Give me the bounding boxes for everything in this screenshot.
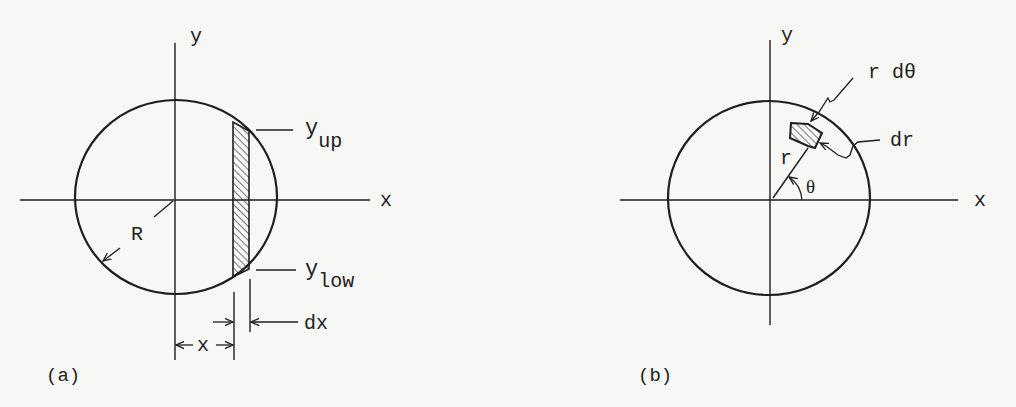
b-caption: (b) [638,365,672,387]
a-x-dim-label: x [197,334,209,357]
a-dx-label: dx [304,312,328,335]
b-y-axis-label: y [781,24,793,47]
a-radius-leader-1 [154,201,173,217]
b-circle [668,101,870,295]
b-rdtheta-label: r dθ [868,61,916,84]
a-ylow-label: ylow [305,257,354,293]
b-dr-label: dr [890,129,914,152]
b-radius-label: r [780,147,792,170]
a-yup-label: yup [305,116,342,153]
b-rdtheta-leader [811,78,853,121]
b-area-element [790,123,822,148]
a-y-axis-label: y [190,25,202,48]
a-radius-label: R [131,223,143,246]
a-x-axis-label: x [380,189,392,212]
b-x-axis-label: x [974,189,986,212]
a-hatched-strip [233,122,249,277]
panel-a: yup ylow R dx x y x (a) [20,25,392,387]
a-caption: (a) [46,365,80,387]
figure-canvas: yup ylow R dx x y x (a) r θ [0,0,1016,407]
a-radius-leader-2 [103,248,120,261]
b-theta-label: θ [806,176,815,197]
b-theta-arc [789,177,802,200]
b-dr-leader [820,140,880,158]
panel-b: r θ r dθ dr y x (b) [620,24,986,387]
